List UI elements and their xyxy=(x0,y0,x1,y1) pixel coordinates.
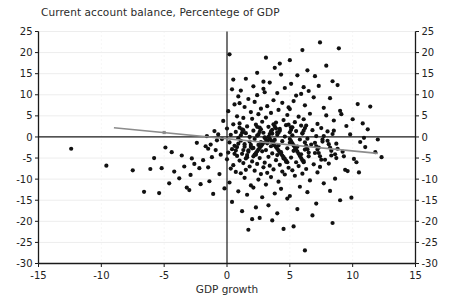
svg-text:5: 5 xyxy=(287,270,293,281)
svg-text:-10: -10 xyxy=(422,174,438,185)
svg-text:15: 15 xyxy=(422,68,435,79)
svg-text:20: 20 xyxy=(422,47,435,58)
svg-text:15: 15 xyxy=(20,68,33,79)
svg-text:-30: -30 xyxy=(422,258,438,269)
svg-text:15: 15 xyxy=(409,270,422,281)
svg-text:0: 0 xyxy=(26,132,32,143)
scatter-plot: 25252020151510105500-5-5-10-10-15-15-20-… xyxy=(0,0,459,296)
svg-text:-5: -5 xyxy=(23,153,33,164)
svg-text:-10: -10 xyxy=(93,270,109,281)
svg-text:-10: -10 xyxy=(16,174,32,185)
svg-text:0: 0 xyxy=(224,270,230,281)
svg-text:-25: -25 xyxy=(16,237,32,248)
svg-text:-30: -30 xyxy=(16,258,32,269)
data-points xyxy=(69,40,384,252)
svg-text:25: 25 xyxy=(422,26,435,37)
svg-text:0: 0 xyxy=(422,132,428,143)
svg-text:-25: -25 xyxy=(422,237,438,248)
svg-text:-5: -5 xyxy=(422,153,432,164)
svg-text:-15: -15 xyxy=(16,195,32,206)
svg-text:10: 10 xyxy=(346,270,359,281)
svg-text:-5: -5 xyxy=(159,270,169,281)
svg-text:25: 25 xyxy=(20,26,33,37)
x-axis-label: GDP growth xyxy=(196,283,258,295)
svg-text:10: 10 xyxy=(422,89,435,100)
zero-reference-lines xyxy=(39,32,416,264)
svg-text:10: 10 xyxy=(20,89,33,100)
chart-container: Current account balance, Percentege of G… xyxy=(0,0,459,296)
svg-text:-20: -20 xyxy=(16,216,32,227)
svg-text:-15: -15 xyxy=(30,270,46,281)
svg-text:5: 5 xyxy=(26,110,32,121)
svg-text:20: 20 xyxy=(20,47,33,58)
svg-text:5: 5 xyxy=(422,110,428,121)
svg-text:-15: -15 xyxy=(422,195,438,206)
svg-text:-20: -20 xyxy=(422,216,438,227)
